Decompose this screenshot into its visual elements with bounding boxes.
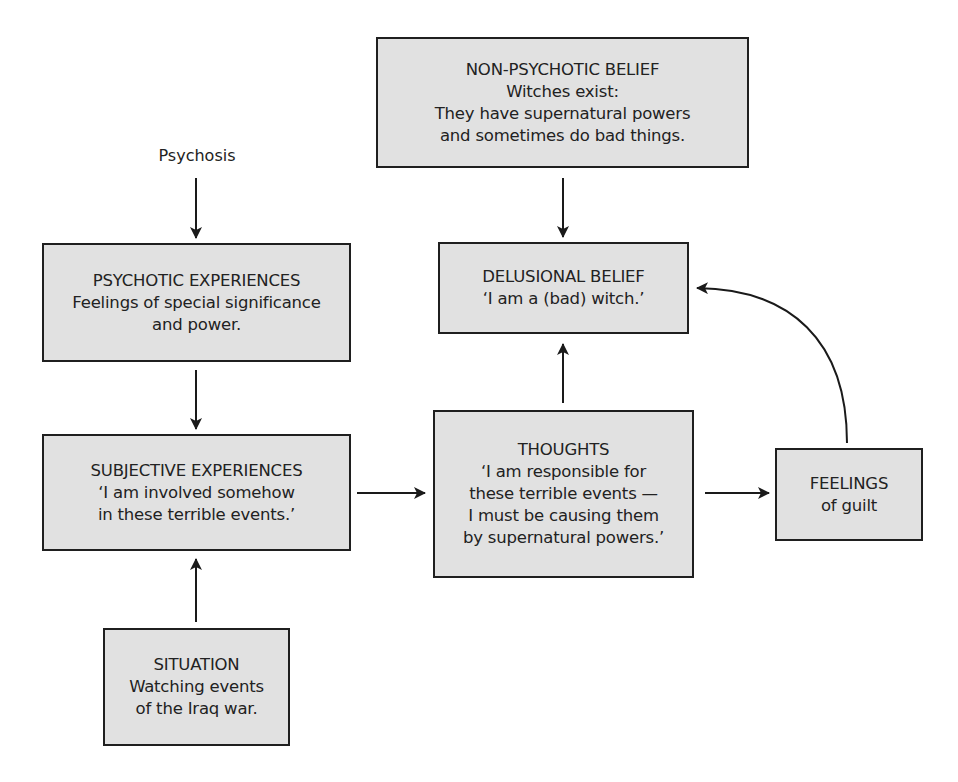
diagram-canvas: Psychosis NON-PSYCHOTIC BELIEF Witches e…	[0, 0, 958, 782]
node-title: SUBJECTIVE EXPERIENCES	[91, 460, 303, 482]
node-text-line: Watching events	[129, 676, 264, 698]
node-text-line: and sometimes do bad things.	[440, 125, 685, 147]
node-text-line: ‘I am involved somehow	[98, 482, 294, 504]
node-text-line: of the Iraq war.	[136, 698, 258, 720]
node-title: PSYCHOTIC EXPERIENCES	[93, 270, 301, 292]
node-text-line: and power.	[152, 314, 241, 336]
node-delusional-belief: DELUSIONAL BELIEF ‘I am a (bad) witch.’	[438, 242, 689, 334]
psychosis-label: Psychosis	[147, 146, 247, 166]
node-text-line: I must be causing them	[468, 505, 659, 527]
node-title: NON-PSYCHOTIC BELIEF	[466, 59, 660, 81]
node-subjective-experiences: SUBJECTIVE EXPERIENCES ‘I am involved so…	[42, 434, 351, 551]
node-text-line: in these terrible events.’	[98, 504, 295, 526]
node-title: FEELINGS	[810, 473, 888, 495]
node-title: THOUGHTS	[518, 439, 610, 461]
node-situation: SITUATION Watching events of the Iraq wa…	[103, 628, 290, 746]
node-feelings: FEELINGS of guilt	[775, 448, 923, 541]
node-text-line: Witches exist:	[506, 81, 619, 103]
node-text-line: of guilt	[821, 495, 877, 517]
node-text-line: Feelings of special significance	[72, 292, 320, 314]
node-non-psychotic-belief: NON-PSYCHOTIC BELIEF Witches exist: They…	[376, 37, 749, 168]
arrow-feelings-to-delusional	[697, 288, 847, 443]
node-title: SITUATION	[154, 654, 240, 676]
node-text-line: these terrible events —	[469, 483, 658, 505]
node-psychotic-experiences: PSYCHOTIC EXPERIENCES Feelings of specia…	[42, 243, 351, 362]
node-text-line: ‘I am responsible for	[481, 461, 646, 483]
node-text-line: They have supernatural powers	[435, 103, 691, 125]
node-title: DELUSIONAL BELIEF	[482, 266, 644, 288]
node-text-line: ‘I am a (bad) witch.’	[483, 288, 645, 310]
node-thoughts: THOUGHTS ‘I am responsible for these ter…	[433, 410, 694, 578]
node-text-line: by supernatural powers.’	[463, 527, 664, 549]
